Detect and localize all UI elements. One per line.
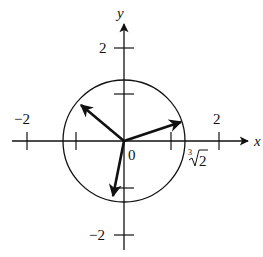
x-tick-label-minus-2: −2 bbox=[14, 111, 30, 127]
radius-label: 3 2 bbox=[188, 148, 208, 169]
origin-label: 0 bbox=[128, 147, 136, 163]
x-tick-label-2: 2 bbox=[213, 111, 221, 127]
y-axis-label: y bbox=[115, 5, 124, 21]
x-axis-label: x bbox=[253, 133, 261, 149]
diagram-canvas: y x 2 −2 −2 2 0 3 2 bbox=[0, 0, 263, 257]
radius-label-radicand: 2 bbox=[199, 153, 207, 169]
radius-label-index: 3 bbox=[188, 148, 192, 157]
complex-roots-diagram: y x 2 −2 −2 2 0 3 2 bbox=[0, 0, 263, 257]
y-tick-label-minus-2: −2 bbox=[89, 227, 105, 243]
vector-root-2 bbox=[81, 105, 124, 141]
y-tick-label-2: 2 bbox=[99, 40, 107, 56]
vector-root-1 bbox=[124, 122, 181, 141]
